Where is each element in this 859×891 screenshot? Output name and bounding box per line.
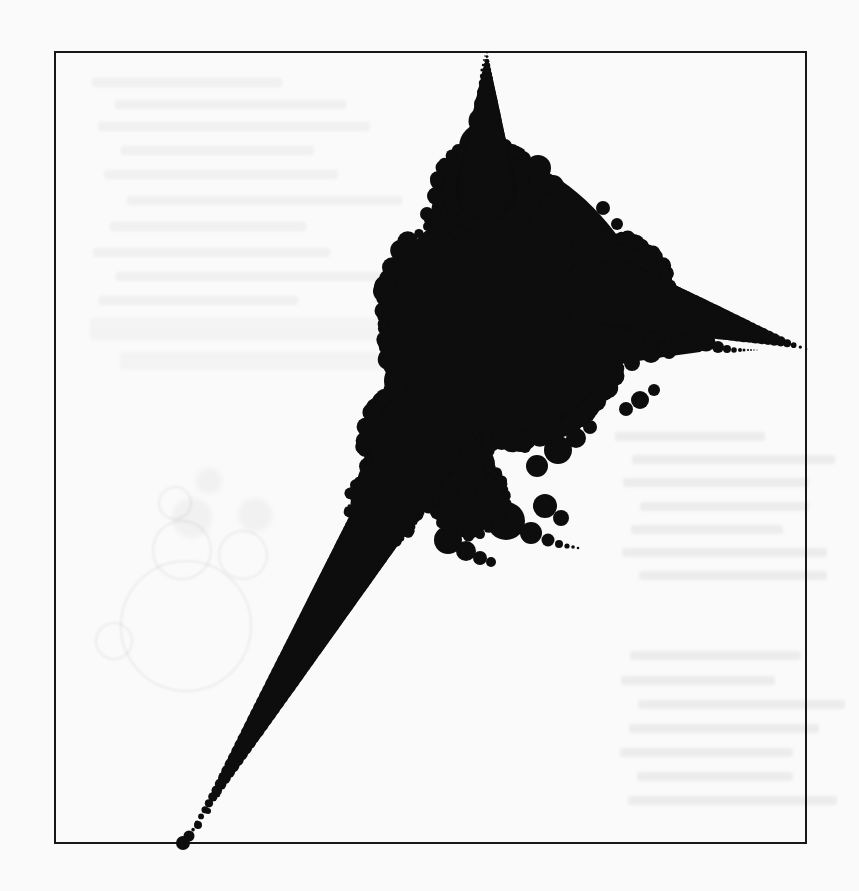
limit-set-fractal-figure: [0, 0, 859, 891]
fractal-circle-group: [176, 52, 808, 851]
